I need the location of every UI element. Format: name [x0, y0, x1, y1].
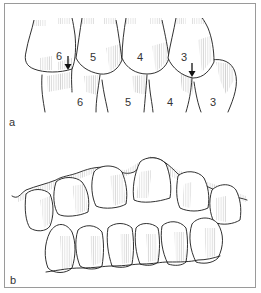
upper-anterior-tooth-5 [177, 172, 209, 211]
upper-tooth-label-3: 3 [181, 51, 187, 63]
lower-tooth-5-hatch [84, 75, 98, 95]
lower-tooth-label-3: 3 [210, 96, 216, 108]
panel-a: 6 5 4 3 6 5 4 3 a [9, 18, 236, 128]
lower-tooth-5 [96, 75, 108, 112]
panel-label-a: a [9, 116, 16, 128]
dental-illustration: 6 5 4 3 6 5 4 3 a [0, 0, 261, 293]
lower-tooth-label-6: 6 [77, 96, 83, 108]
upper-tooth-label-5: 5 [90, 51, 96, 63]
lower-tooth-6-hatch [47, 72, 70, 92]
panel-label-b: b [10, 274, 16, 286]
upper-tooth-label-4: 4 [137, 51, 143, 63]
lower-tooth-label-4: 4 [167, 96, 173, 108]
lower-tooth-4-hatch [132, 75, 146, 95]
panel-b: b [10, 156, 247, 286]
lower-tooth-label-5: 5 [125, 96, 131, 108]
upper-teeth [25, 18, 214, 78]
upper-tooth-label-6: 6 [56, 50, 62, 62]
